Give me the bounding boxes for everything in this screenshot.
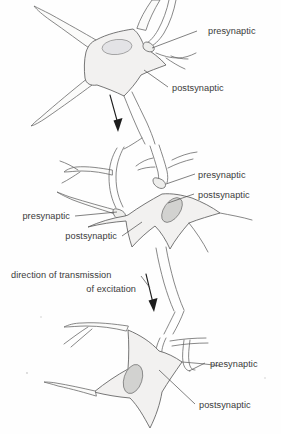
label-top-postsynaptic: postsynaptic [172, 83, 224, 93]
top-neuron-axon-fork [124, 138, 142, 149]
middle-neuron-process-upper-right-a [168, 159, 193, 168]
label-mid-right-postsynaptic: postsynaptic [198, 190, 250, 200]
synapse-diagram: presynaptic postsynaptic presynaptic pos… [0, 0, 281, 434]
diagram-canvas: presynaptic postsynaptic presynaptic pos… [0, 0, 281, 434]
transmission-arrow-top-head [114, 118, 123, 132]
transmission-arrow-middle-head [149, 298, 158, 312]
middle-neuron-dendrite-upper-left-fork2 [62, 172, 80, 183]
label-bottom-presynaptic: presynaptic [210, 359, 258, 369]
artifact-speck-right [264, 377, 266, 379]
artifact-speck-bottom [40, 316, 42, 318]
top-neuron-axon-descending-right [132, 92, 155, 144]
leader-direction-of-transmission [141, 276, 150, 288]
bottom-neuron-incoming-axon-right [173, 311, 184, 334]
bottom-neuron-dendrite-upper-left [64, 323, 128, 331]
top-neuron [31, 0, 196, 149]
top-neuron-dendrite-upper-left [34, 6, 96, 50]
bottom-neuron-incoming-axon-left [164, 312, 175, 334]
middle-neuron-incoming-axon-right [116, 147, 124, 207]
middle-neuron-dendrite-lower-right [189, 223, 208, 252]
middle-neuron-presyn-axon-b [159, 145, 168, 183]
bottom-neuron-collateral-upper [170, 338, 206, 341]
label-mid-right-presynaptic: presynaptic [198, 170, 246, 180]
leader-top-postsynaptic [144, 70, 168, 87]
artifact-speck-left [26, 372, 28, 374]
transmission-arrow-middle-shaft [146, 274, 153, 303]
middle-neuron-dendrite-upper-left [64, 167, 112, 175]
label-bottom-postsynaptic: postsynaptic [199, 400, 251, 410]
top-neuron-branch-right-lower [166, 58, 185, 69]
bottom-neuron-collateral-lower [172, 343, 208, 346]
transmission-arrow-middle [146, 274, 158, 312]
leader-mid-right-presynaptic [166, 174, 195, 184]
label-direction-line1: direction of transmission [11, 270, 111, 280]
label-top-presynaptic: presynaptic [208, 26, 256, 36]
middle-neuron-terminal-fork-top [136, 158, 153, 166]
label-mid-left-presynaptic: presynaptic [22, 211, 70, 221]
transmission-arrow-top [110, 95, 123, 132]
top-neuron-soma [84, 29, 166, 96]
label-direction-line2: of excitation [86, 284, 136, 294]
bottom-neuron-presynaptic-leg-right-b [189, 340, 195, 370]
label-mid-left-postsynaptic: postsynaptic [65, 231, 117, 241]
middle-neuron-axon-descending-right [166, 247, 184, 310]
middle-neuron-presynaptic-terminal-right [153, 178, 166, 189]
top-neuron-dendrite-upper-right [137, 0, 160, 30]
leader-mid-left-presynaptic [75, 212, 117, 216]
middle-neuron-dendrite-right [220, 213, 252, 220]
top-neuron-dendrite-lower-left [31, 78, 92, 126]
leader-bottom-presynaptic [189, 363, 205, 371]
top-neuron-axon-descending-left [124, 96, 145, 144]
middle-neuron-terminal-fork-top2 [138, 167, 155, 170]
bottom-neuron [26, 311, 266, 428]
bottom-neuron-dendrite-left [44, 382, 96, 396]
middle-neuron-axon-descending-left [156, 248, 174, 311]
